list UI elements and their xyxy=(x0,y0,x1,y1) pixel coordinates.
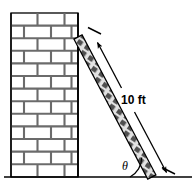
figure-container: 10 ft θ xyxy=(0,0,194,194)
length-label: 10 ft xyxy=(121,93,146,107)
ladder-wall-diagram: 10 ft θ xyxy=(0,0,194,194)
ladder-body xyxy=(74,35,156,179)
brick-wall xyxy=(11,13,78,177)
dimension-tick-top xyxy=(88,28,101,35)
ladder xyxy=(74,35,156,179)
angle-label: θ xyxy=(122,159,128,173)
